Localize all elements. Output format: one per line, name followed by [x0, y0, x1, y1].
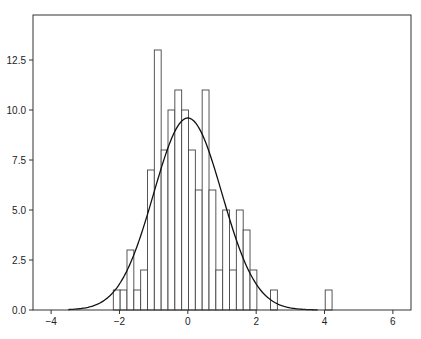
histogram-bar — [147, 170, 154, 310]
x-tick-label: 6 — [390, 316, 396, 327]
histogram-bar — [189, 150, 196, 310]
y-tick-label: 0.0 — [12, 305, 26, 316]
histogram-chart: −4−20246 0.02.55.07.510.012.5 — [0, 0, 421, 339]
y-tick-label: 7.5 — [12, 155, 26, 166]
histogram-bar — [223, 210, 230, 310]
histogram-bar — [325, 290, 332, 310]
x-tick-label: −4 — [45, 316, 57, 327]
x-tick-label: 2 — [253, 316, 259, 327]
histogram-bar — [202, 90, 209, 310]
histogram-bar — [161, 150, 168, 310]
histogram-bar — [236, 210, 243, 310]
histogram-bar — [209, 190, 216, 310]
bars-group — [113, 50, 332, 310]
x-tick-label: 4 — [322, 316, 328, 327]
histogram-bar — [195, 190, 202, 310]
y-axis: 0.02.55.07.510.012.5 — [7, 55, 33, 316]
x-axis: −4−20246 — [45, 310, 396, 327]
y-tick-label: 12.5 — [7, 55, 27, 66]
histogram-bar — [216, 270, 223, 310]
y-tick-label: 2.5 — [12, 255, 26, 266]
y-tick-label: 5.0 — [12, 205, 26, 216]
x-tick-label: 0 — [185, 316, 191, 327]
histogram-bar — [120, 290, 127, 310]
y-tick-label: 10.0 — [7, 105, 27, 116]
plot-frame — [33, 15, 411, 310]
histogram-bar — [134, 290, 141, 310]
histogram-bar — [182, 110, 189, 310]
histogram-bar — [230, 270, 237, 310]
histogram-bar — [113, 290, 120, 310]
histogram-bar — [141, 270, 148, 310]
x-tick-label: −2 — [114, 316, 126, 327]
